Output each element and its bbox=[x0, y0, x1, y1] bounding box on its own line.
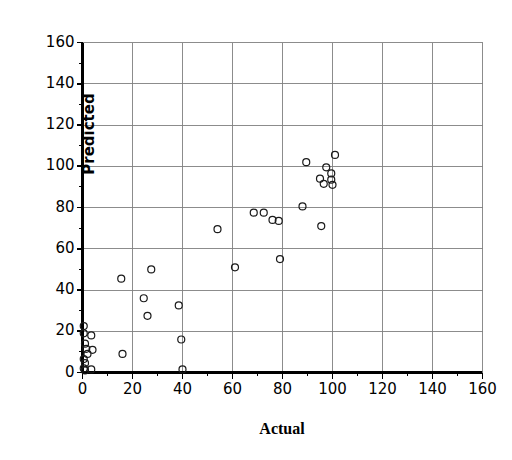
y-axis-title: Predicted bbox=[75, 59, 103, 209]
scatter-plot-figure: 020406080100120140160 020406080100120140… bbox=[0, 0, 512, 460]
x-axis-title: Actual bbox=[82, 420, 482, 438]
